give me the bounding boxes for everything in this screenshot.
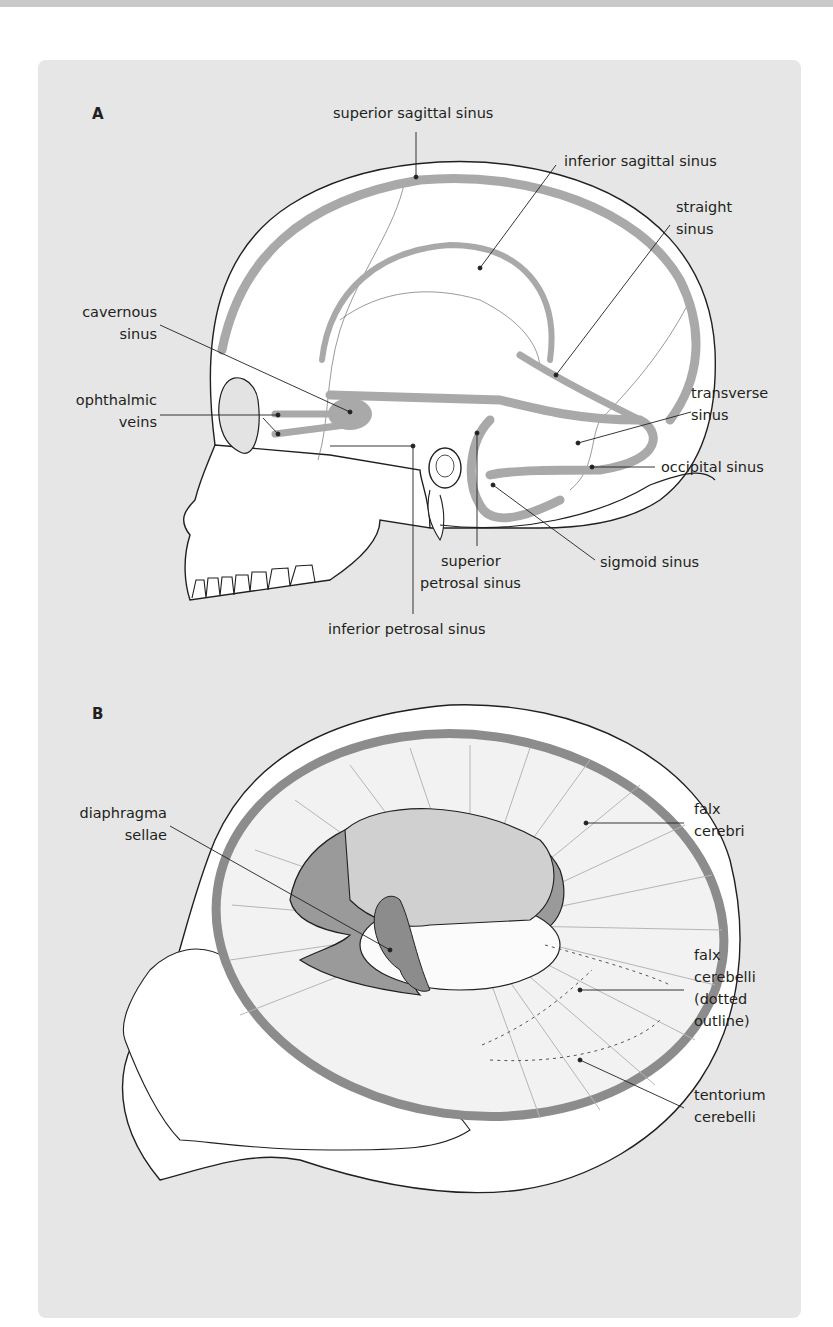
label-superior-sagittal-sinus: superior sagittal sinus (333, 104, 493, 122)
label-transverse-sinus-line2: sinus (691, 406, 729, 424)
label-ophthalmic-veins-line2: veins (119, 413, 157, 431)
label-occipital-sinus: occipital sinus (661, 458, 764, 476)
label-inferior-sagittal-sinus: inferior sagittal sinus (564, 152, 717, 170)
label-straight-sinus-line2: sinus (676, 220, 714, 238)
label-falx-cerebelli-line2: cerebelli (694, 968, 756, 986)
label-straight-sinus-line1: straight (676, 198, 732, 216)
label-falx-cerebri-line2: cerebri (694, 822, 745, 840)
label-cavernous-sinus-line1: cavernous (82, 303, 157, 321)
label-falx-cerebri-line1: falx (694, 800, 721, 818)
label-falx-cerebelli-line3: (dotted (694, 990, 747, 1008)
label-superior-petrosal-sinus-line2: petrosal sinus (420, 574, 521, 592)
panel-letter-a: A (92, 105, 104, 123)
label-transverse-sinus-line1: transverse (691, 384, 768, 402)
label-cavernous-sinus-line2: sinus (119, 325, 157, 343)
label-falx-cerebelli-line1: falx (694, 946, 721, 964)
label-tentorium-cerebelli-line2: cerebelli (694, 1108, 756, 1126)
label-inferior-petrosal-sinus: inferior petrosal sinus (328, 620, 486, 638)
label-superior-petrosal-sinus-line1: superior (441, 552, 501, 570)
label-ophthalmic-veins-line1: ophthalmic (76, 391, 157, 409)
label-sigmoid-sinus: sigmoid sinus (600, 553, 699, 571)
label-tentorium-cerebelli-line1: tentorium (694, 1086, 766, 1104)
label-falx-cerebelli-line4: outline) (694, 1012, 750, 1030)
panel-letter-b: B (92, 705, 103, 723)
label-diaphragma-sellae-line1: diaphragma (79, 804, 167, 822)
label-diaphragma-sellae-line2: sellae (125, 826, 167, 844)
